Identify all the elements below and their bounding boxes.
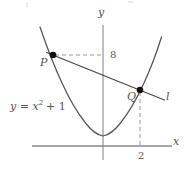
- point-p-label: P: [40, 57, 47, 68]
- parabola-curve: [40, 27, 162, 136]
- math-figure: y x 8 2 P Q l y = x2+ 1: [0, 0, 186, 173]
- curve-equation-label: y = x2+ 1: [10, 100, 66, 112]
- equation-tail: + 1: [46, 100, 66, 113]
- equation-exponent: 2: [39, 99, 43, 107]
- point-q-marker: [137, 87, 144, 94]
- equation-head: y = x: [10, 100, 39, 113]
- figure-canvas: [0, 0, 186, 173]
- y-value-label-8: 8: [110, 50, 116, 60]
- line-l-label: l: [166, 91, 170, 102]
- point-p-marker: [50, 52, 57, 59]
- point-q-label: Q: [127, 91, 136, 102]
- x-tick-label-2: 2: [138, 151, 144, 161]
- y-axis-label: y: [98, 7, 104, 18]
- x-axis-label: x: [173, 136, 179, 147]
